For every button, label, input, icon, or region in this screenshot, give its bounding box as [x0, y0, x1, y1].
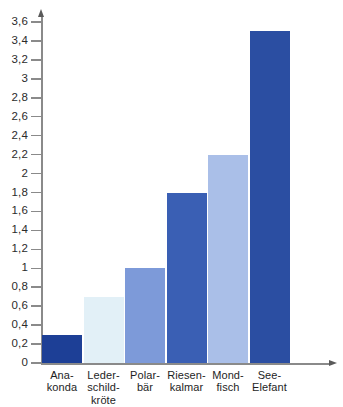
y-axis-arrow-icon [38, 9, 44, 17]
y-axis-tick-label: 3,2 [0, 54, 28, 66]
category-label-line: Elefant [243, 381, 297, 393]
y-axis-tick-label: 0,8 [0, 281, 28, 293]
y-axis-tick-label: 1,2 [0, 243, 28, 255]
y-axis-tick-label: 2,4 [0, 130, 28, 142]
y-axis-tick [31, 135, 41, 137]
y-axis-tick-label: 2,2 [0, 149, 28, 161]
y-axis-tick-label: 1 [0, 262, 28, 274]
bar [208, 155, 248, 363]
bar [84, 297, 124, 363]
y-axis-tick-label: 2,8 [0, 92, 28, 104]
x-axis-arrow-icon [329, 360, 337, 366]
y-axis-tick [31, 116, 41, 118]
y-axis-tick [31, 268, 41, 270]
plot-area: 00,20,40,60,811,21,41,61,822,22,42,62,83… [0, 0, 343, 407]
y-axis-tick [31, 192, 41, 194]
y-axis-tick [31, 343, 41, 345]
y-axis-tick [31, 362, 41, 364]
x-axis-line [41, 363, 330, 365]
category-label-line: kröte [77, 394, 131, 406]
y-axis-tick-label: 0,2 [0, 338, 28, 350]
bar [42, 335, 82, 363]
y-axis-tick-label: 0,4 [0, 319, 28, 331]
y-axis-tick [31, 78, 41, 80]
x-axis-category-label: See-Elefant [243, 369, 297, 394]
y-axis-tick-label: 1,8 [0, 187, 28, 199]
y-axis-tick-label: 0,6 [0, 300, 28, 312]
y-axis-tick [31, 97, 41, 99]
bar [125, 268, 165, 363]
y-axis-tick-label: 3 [0, 73, 28, 85]
y-axis-tick-label: 3,6 [0, 16, 28, 28]
y-axis-tick [31, 230, 41, 232]
y-axis-line [41, 16, 43, 364]
y-axis-tick [31, 211, 41, 213]
y-axis-tick-label: 1,6 [0, 205, 28, 217]
y-axis-tick [31, 173, 41, 175]
y-axis-tick-label: 2 [0, 168, 28, 180]
y-axis-tick [31, 40, 41, 42]
y-axis-tick [31, 154, 41, 156]
y-axis-tick-label: 0 [0, 357, 28, 369]
y-axis-tick-label: 1,4 [0, 224, 28, 236]
y-axis-tick [31, 21, 41, 23]
y-axis-tick-label: 2,6 [0, 111, 28, 123]
bar [250, 31, 290, 363]
y-axis-tick [31, 59, 41, 61]
bar [167, 193, 207, 364]
category-label-line: See- [243, 369, 297, 381]
y-axis-tick [31, 286, 41, 288]
y-axis-tick [31, 249, 41, 251]
y-axis-tick [31, 324, 41, 326]
y-axis-tick-label: 3,4 [0, 35, 28, 47]
y-axis-tick [31, 305, 41, 307]
bar-chart: 00,20,40,60,811,21,41,61,822,22,42,62,83… [0, 0, 343, 407]
